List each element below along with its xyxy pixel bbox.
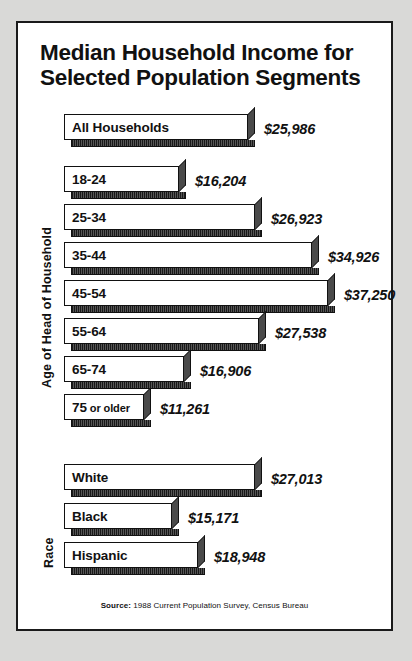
bar[interactable]: Black xyxy=(64,503,172,529)
bar-label: White xyxy=(72,470,108,485)
bar-value-label: $25,986 xyxy=(264,121,315,137)
title-line-1: Median Household Income for xyxy=(40,40,380,65)
bar-shadow-right xyxy=(312,235,319,268)
bar-label: All Households xyxy=(72,120,169,135)
bar-value-label: $27,538 xyxy=(275,325,326,341)
bar-value-label: $34,926 xyxy=(328,249,379,265)
bar-shadow-bottom xyxy=(71,420,151,427)
bar-label: 55-64 xyxy=(72,324,106,339)
bar-label-qualifier: or older xyxy=(87,402,130,414)
bar-shadow-right xyxy=(198,535,205,568)
bar[interactable]: 35-44 xyxy=(64,242,312,268)
bar-shadow-bottom xyxy=(71,382,191,389)
bar-label: 25-34 xyxy=(72,210,106,225)
bar-shadow-right xyxy=(144,387,151,420)
chart-panel: Median Household Income for Selected Pop… xyxy=(16,21,393,631)
bar[interactable]: 18-24 xyxy=(64,166,179,192)
bar-label: Black xyxy=(72,509,108,524)
bar-value-label: $37,250 xyxy=(344,287,395,303)
bar-value-label: $18,948 xyxy=(214,549,265,565)
bar[interactable]: 55-64 xyxy=(64,318,259,344)
bar-value-label: $16,906 xyxy=(200,363,251,379)
bar-shadow-bottom xyxy=(71,268,319,275)
bar-label-main: 75 xyxy=(72,400,87,415)
bar-value-label: $16,204 xyxy=(195,173,246,189)
bar[interactable]: 25-34 xyxy=(64,204,255,230)
bar-shadow-right xyxy=(255,457,262,490)
bar[interactable]: White xyxy=(64,464,255,490)
bar-value-label: $11,261 xyxy=(160,401,210,417)
page-title: Median Household Income for Selected Pop… xyxy=(40,40,380,90)
bar-label: Hispanic xyxy=(72,548,127,563)
bar-label: 65-74 xyxy=(72,362,106,377)
bar-shadow-right xyxy=(248,107,255,140)
bar-value-label: $27,013 xyxy=(271,471,322,487)
bar-shadow-right xyxy=(179,159,186,192)
bar-shadow-bottom xyxy=(71,529,179,536)
bar[interactable]: 45-54 xyxy=(64,280,328,306)
bar-shadow-right xyxy=(172,496,179,529)
bar-shadow-bottom xyxy=(71,140,255,147)
bar-shadow-bottom xyxy=(71,490,262,497)
bar-label: 18-24 xyxy=(72,172,106,187)
bar-shadow-bottom xyxy=(71,568,205,575)
bar-label: 75 or older xyxy=(72,400,130,415)
bar-shadow-right xyxy=(184,349,191,382)
bar-shadow-bottom xyxy=(71,306,335,313)
axis-label-age-of-head-of-household: Age of Head of Household xyxy=(40,227,54,388)
title-line-2: Selected Population Segments xyxy=(40,65,380,90)
bar-value-label: $15,171 xyxy=(188,510,239,526)
bar-shadow-bottom xyxy=(71,230,262,237)
bar-label: 45-54 xyxy=(72,286,106,301)
bar-shadow-right xyxy=(328,273,335,306)
bar-shadow-right xyxy=(255,197,262,230)
bar[interactable]: 65-74 xyxy=(64,356,184,382)
source-text: 1988 Current Population Survey, Census B… xyxy=(131,601,308,610)
axis-label-race: Race xyxy=(42,537,56,568)
source-label: Source: xyxy=(101,601,131,610)
bar-shadow-bottom xyxy=(71,192,186,199)
bar-value-label: $26,923 xyxy=(271,211,322,227)
source-note: Source: 1988 Current Population Survey, … xyxy=(18,601,391,610)
bar-label: 35-44 xyxy=(72,248,106,263)
bar-shadow-right xyxy=(259,311,266,344)
bar-shadow-bottom xyxy=(71,344,266,351)
bar[interactable]: Hispanic xyxy=(64,542,198,568)
bar[interactable]: All Households xyxy=(64,114,248,140)
bar[interactable]: 75 or older xyxy=(64,394,144,420)
